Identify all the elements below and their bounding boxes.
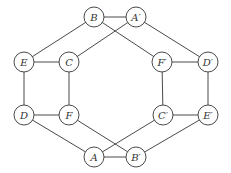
node-a-prime: A′ — [126, 7, 146, 27]
node-f-prime: F′ — [152, 52, 172, 72]
edge-a-prime-c — [69, 17, 136, 62]
node-d: D — [14, 105, 34, 125]
edge-f-b-prime — [69, 115, 136, 157]
node-label: A — [89, 152, 97, 163]
edges — [24, 17, 208, 157]
node-label: A′ — [130, 12, 141, 23]
edge-e-prime-b-prime — [136, 115, 208, 157]
node-e-prime: E′ — [198, 105, 218, 125]
node-label: C′ — [158, 110, 169, 121]
node-label: C — [65, 57, 73, 68]
edge-d-a — [24, 115, 94, 157]
node-label: D′ — [202, 57, 214, 68]
graph-diagram: BA′ECF′D′DFC′E′AB′ — [0, 0, 231, 173]
node-label: B — [89, 12, 97, 23]
node-a: A — [84, 147, 104, 167]
node-c-prime: C′ — [153, 105, 173, 125]
node-label: E′ — [202, 110, 213, 121]
node-b-prime: B′ — [126, 147, 146, 167]
node-d-prime: D′ — [198, 52, 218, 72]
node-label: E — [19, 57, 28, 68]
edge-b-e — [24, 17, 94, 62]
node-label: B′ — [130, 152, 141, 163]
node-label: F — [65, 110, 74, 121]
edge-a-prime-d-prime — [136, 17, 208, 62]
node-label: D — [19, 110, 28, 121]
node-label: F′ — [156, 57, 167, 68]
node-c: C — [59, 52, 79, 72]
node-e: E — [14, 52, 34, 72]
node-b: B — [84, 7, 104, 27]
node-f: F — [59, 105, 79, 125]
